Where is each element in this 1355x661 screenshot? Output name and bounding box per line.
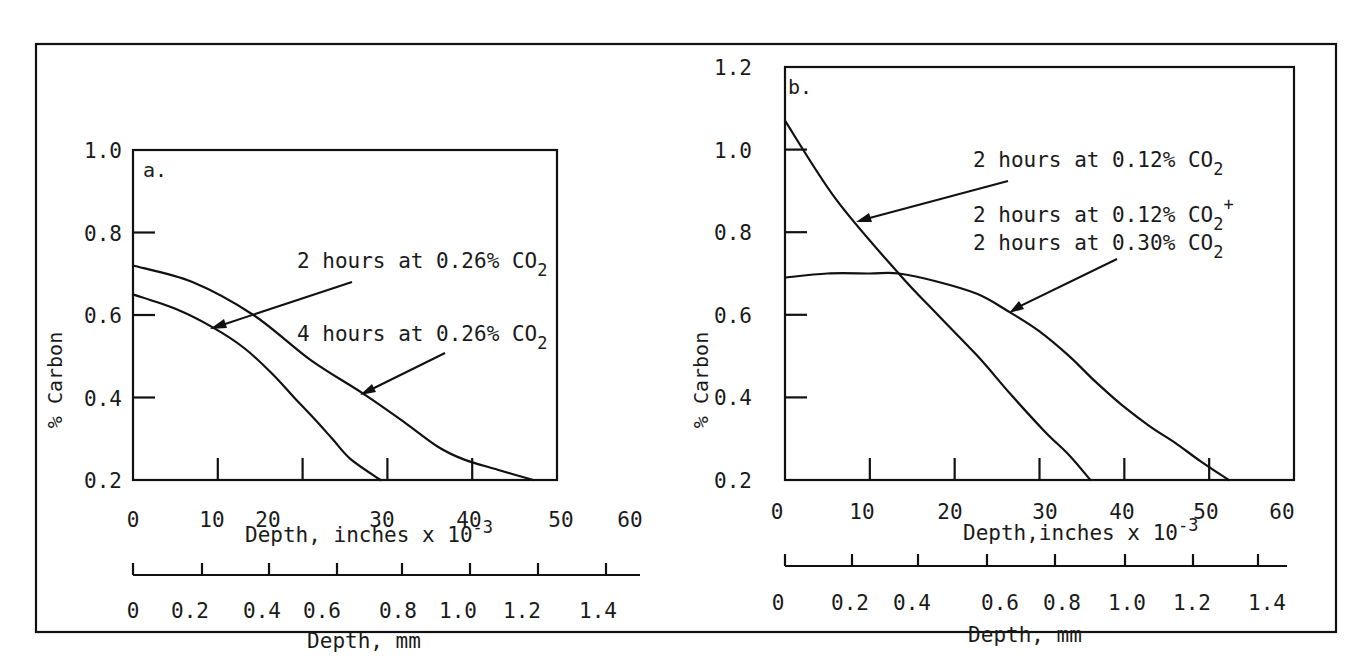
panel-b-mm-ticks xyxy=(785,554,1258,566)
panel-b-series-2-line xyxy=(785,273,1229,480)
panel-b-y-tick-label: 0.4 xyxy=(714,386,752,410)
panel-a-x-tick-label: 0 xyxy=(127,508,140,532)
panel-b-mm-tick-label: 1.0 xyxy=(1108,591,1146,615)
panel-b-mm-tick-label: 0.6 xyxy=(981,591,1019,615)
panel-b-x-ticks xyxy=(870,458,1209,480)
panel-a-mm-tick-label: 1.4 xyxy=(579,599,617,623)
panel-a-y-tick-label: 0.8 xyxy=(84,222,122,246)
panel-b-y-axis-title: % Carbon xyxy=(689,332,713,428)
panel-b-y-tick-label: 1.0 xyxy=(714,139,752,163)
panel-b-curves xyxy=(785,121,1229,480)
panel-b-series-1-line xyxy=(785,121,1090,480)
panel-a: a. % Carbon 0.20.40.60.81.0 2 hours at 0… xyxy=(43,139,643,653)
panel-a-y-tick-label: 0.6 xyxy=(84,304,122,328)
panel-b-y-tick-label: 0.2 xyxy=(714,469,752,493)
panel-b-x-tick-label: 60 xyxy=(1269,500,1294,524)
panel-b-y-tick-label: 1.2 xyxy=(714,56,752,80)
panel-a-mm-axis-title: Depth, mm xyxy=(307,629,421,653)
panel-a-y-ticks: 0.20.40.60.81.0 xyxy=(84,139,155,493)
panel-a-x-tick-label: 50 xyxy=(548,508,573,532)
panel-b-mm-axis-title: Depth, mm xyxy=(968,623,1082,647)
panel-b-tag: b. xyxy=(788,75,812,99)
panel-a-y-tick-label: 0.4 xyxy=(84,387,122,411)
panel-a-mm-ticks xyxy=(133,563,606,575)
panel-b-mm-tick-label: 0.4 xyxy=(893,591,931,615)
panel-a-mm-tick-label: 0.8 xyxy=(379,599,417,623)
panel-b-mm-tick-labels: 00.20.40.60.81.01.21.4 xyxy=(772,591,1286,615)
panel-a-series-2-arrow xyxy=(360,353,445,395)
panel-b-y-ticks: 0.20.40.60.81.01.2 xyxy=(714,56,807,493)
panel-a-series-2-label: 4 hours at 0.26% CO2 xyxy=(297,322,547,353)
panel-a-mm-tick-label: 1.2 xyxy=(503,599,541,623)
panel-a-mm-tick-label: 0.4 xyxy=(243,599,281,623)
panel-b-x-axis-title: Depth,inches x 10-3 xyxy=(963,515,1198,545)
panel-a-mm-tick-label: 1.0 xyxy=(439,599,477,623)
panel-b-series-1-label: 2 hours at 0.12% CO2 xyxy=(973,148,1223,179)
panel-a-x-tick-label: 60 xyxy=(617,508,642,532)
panel-a-plot-frame xyxy=(133,150,557,480)
panel-b-series-2-label: 2 hours at 0.12% CO2+ xyxy=(973,194,1234,234)
panel-a-series-2-line xyxy=(133,266,533,481)
panel-b-mm-tick-label: 0 xyxy=(772,591,785,615)
panel-a-y-tick-label: 0.2 xyxy=(84,469,122,493)
panel-a-tag: a. xyxy=(143,158,167,182)
panel-b-x-tick-label: 0 xyxy=(771,500,784,524)
panel-b-y-tick-label: 0.6 xyxy=(714,304,752,328)
panel-a-y-tick-label: 1.0 xyxy=(84,139,122,163)
panel-a-mm-tick-label: 0.2 xyxy=(171,599,209,623)
panel-a-x-ticks xyxy=(218,458,472,480)
panel-b-series-2-label-line2: 2 hours at 0.30% CO2 xyxy=(973,231,1223,262)
panel-b-mm-tick-label: 0.8 xyxy=(1043,591,1081,615)
panel-b-mm-tick-label: 0.2 xyxy=(831,591,869,615)
panel-a-mm-tick-label: 0 xyxy=(127,599,140,623)
panel-b-mm-tick-label: 1.2 xyxy=(1173,591,1211,615)
panel-b: b. % Carbon 0.20.40.60.81.01.2 2 hours a… xyxy=(689,56,1295,647)
panel-a-series-1-label: 2 hours at 0.26% CO2 xyxy=(297,249,547,280)
panel-b-series-2-arrow xyxy=(1009,259,1117,313)
panel-b-mm-tick-label: 1.4 xyxy=(1248,591,1286,615)
panel-a-mm-tick-label: 0.6 xyxy=(303,599,341,623)
panel-a-y-axis-title: % Carbon xyxy=(43,332,67,428)
figure: a. % Carbon 0.20.40.60.81.0 2 hours at 0… xyxy=(0,0,1355,661)
panel-a-x-tick-label: 10 xyxy=(199,508,224,532)
panel-b-x-tick-label: 20 xyxy=(937,500,962,524)
panel-b-y-tick-label: 0.8 xyxy=(714,221,752,245)
panel-a-curves xyxy=(133,266,533,481)
panel-a-mm-tick-labels: 00.20.40.60.81.01.21.4 xyxy=(127,599,617,623)
panel-b-x-tick-label: 10 xyxy=(849,500,874,524)
